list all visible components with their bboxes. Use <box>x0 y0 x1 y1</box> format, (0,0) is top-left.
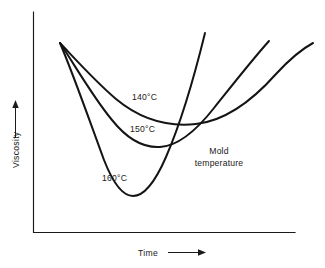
series-label-140c: 140°C <box>132 92 157 102</box>
curve-140c <box>60 43 313 125</box>
figure-container: 140°C 150°C 160°C Mold temperature Time … <box>0 0 325 268</box>
series-label-160c: 160°C <box>102 173 127 183</box>
x-axis-arrow-icon <box>198 249 206 255</box>
viscosity-vs-time-chart: 140°C 150°C 160°C Mold temperature Time … <box>0 0 325 268</box>
curve-150c <box>60 41 269 147</box>
annotation-mold: Mold <box>209 146 228 156</box>
annotation-temperature: temperature <box>195 158 244 168</box>
x-axis-title: Time <box>138 248 158 258</box>
y-axis-arrow-icon <box>12 100 18 108</box>
series-label-150c: 150°C <box>130 124 155 134</box>
curve-160c <box>60 33 205 196</box>
